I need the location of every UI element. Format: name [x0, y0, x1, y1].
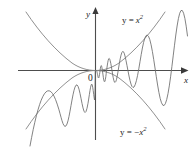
y-axis-label: y	[86, 10, 90, 19]
axes-group	[18, 7, 189, 140]
upper-envelope-label: y = x2	[122, 14, 143, 25]
curves-group	[26, 11, 188, 147]
upper-envelope-label-lhs: y =	[122, 15, 134, 25]
x-axis-arrow-icon	[181, 67, 189, 73]
figure-container: y x 0 y = x2 y = −x2	[0, 0, 196, 152]
oscillating-function-curve	[30, 11, 188, 147]
lower-envelope-label-exponent: 2	[143, 125, 146, 132]
origin-label: 0	[88, 74, 93, 84]
upper-envelope-label-exponent: 2	[140, 13, 143, 20]
x-axis-label: x	[184, 76, 188, 85]
lower-envelope-label: y = −x2	[120, 126, 146, 137]
y-axis-arrow-icon	[92, 7, 98, 14]
lower-envelope-label-lhs: y = −	[120, 127, 139, 137]
plot-canvas	[0, 0, 196, 152]
